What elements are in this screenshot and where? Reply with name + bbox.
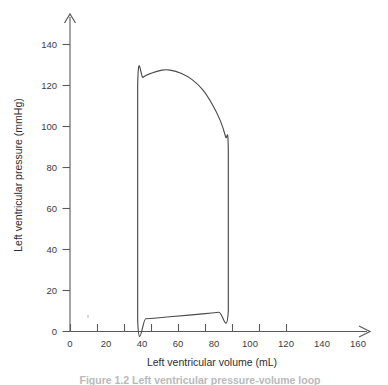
x-axis-title: Left ventricular volume (mL) <box>147 356 277 368</box>
x-tick-label-80: 80 <box>209 338 220 349</box>
y-tick-label-140: 140 <box>41 39 57 50</box>
y-tick-label-0: 0 <box>52 326 57 337</box>
x-tick-label-100: 100 <box>242 338 258 349</box>
scan-artifact-speck <box>87 315 89 318</box>
figure-caption: Figure 1.2 Left ventricular pressure-vol… <box>80 374 321 385</box>
y-tick-label-40: 40 <box>46 244 57 255</box>
x-tick-label-60: 60 <box>173 338 184 349</box>
x-axis-group: 0 20 40 60 80 100 120 140 160 Left ventr… <box>67 324 370 368</box>
figure-container: 140 120 100 80 60 40 20 0 Left ventricul… <box>0 0 388 385</box>
pv-loop-path <box>138 66 229 337</box>
pv-loop-chart: 140 120 100 80 60 40 20 0 Left ventricul… <box>0 0 388 385</box>
x-tick-label-20: 20 <box>101 338 112 349</box>
y-tick-label-120: 120 <box>41 80 57 91</box>
x-tick-label-120: 120 <box>278 338 294 349</box>
y-tick-label-60: 60 <box>46 203 57 214</box>
x-tick-label-0: 0 <box>67 338 72 349</box>
pv-loop-series <box>138 66 229 337</box>
y-tick-label-20: 20 <box>46 285 57 296</box>
x-tick-label-140: 140 <box>314 338 330 349</box>
y-tick-label-80: 80 <box>46 162 57 173</box>
y-axis-title: Left ventricular pressure (mmHg) <box>12 98 24 251</box>
x-tick-label-40: 40 <box>137 338 148 349</box>
x-tick-label-160: 160 <box>350 338 366 349</box>
y-axis-group: 140 120 100 80 60 40 20 0 Left ventricul… <box>12 14 76 337</box>
y-tick-label-100: 100 <box>41 121 57 132</box>
